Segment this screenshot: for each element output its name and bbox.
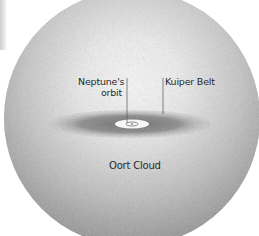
neptune-orbit-label: Neptune's orbit xyxy=(78,76,122,98)
diagram-graphic xyxy=(0,0,259,236)
neptune-orbit-label-line1: Neptune's xyxy=(78,76,122,87)
sun-dot xyxy=(131,123,133,125)
neptune-orbit-label-line2: orbit xyxy=(78,87,122,98)
oort-cloud-diagram: Neptune's orbit Kuiper Belt Oort Cloud xyxy=(0,0,259,236)
kuiper-belt-label: Kuiper Belt xyxy=(165,76,215,87)
oort-cloud-label: Oort Cloud xyxy=(109,160,161,171)
